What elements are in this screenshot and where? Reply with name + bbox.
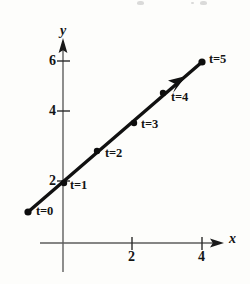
point-label-t4: t=4 xyxy=(171,91,188,104)
point-label-t3: t=3 xyxy=(141,118,158,131)
data-point-t3 xyxy=(131,120,137,126)
y-axis-label: y xyxy=(60,24,66,38)
y-axis xyxy=(59,38,68,272)
data-point-t0 xyxy=(24,208,31,215)
point-label-t1: t=1 xyxy=(70,179,87,192)
parametric-line-segment xyxy=(28,62,202,212)
parametric-graph-figure: 6 4 2 2 4 y x t=0 t=1 t=2 t=3 t=4 t=5 xyxy=(0,0,250,284)
plot-canvas xyxy=(0,0,250,284)
point-label-t5: t=5 xyxy=(209,53,226,66)
point-label-t0: t=0 xyxy=(36,205,53,218)
x-axis-label: x xyxy=(229,232,236,246)
y-tick-label-2: 2 xyxy=(44,174,56,188)
data-line xyxy=(28,62,202,212)
data-point-t2 xyxy=(94,148,100,154)
y-tick-label-4: 4 xyxy=(44,104,56,118)
x-tick-label-2: 2 xyxy=(125,250,138,264)
data-point-t5 xyxy=(198,58,205,65)
data-point-t1 xyxy=(61,180,67,186)
data-point-t4 xyxy=(160,90,166,96)
y-tick-label-6: 6 xyxy=(44,54,56,68)
x-tick-label-4: 4 xyxy=(195,250,208,264)
point-label-t2: t=2 xyxy=(105,147,122,160)
